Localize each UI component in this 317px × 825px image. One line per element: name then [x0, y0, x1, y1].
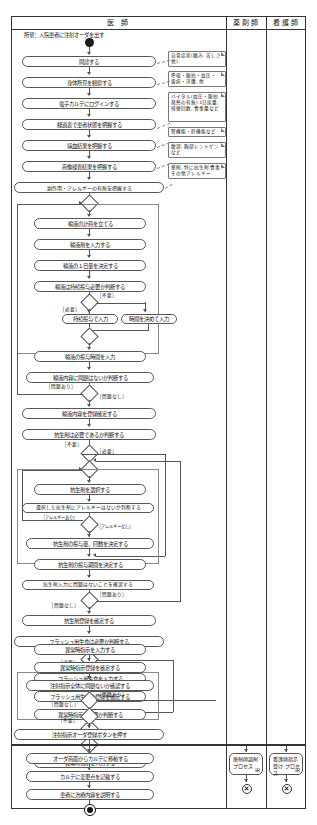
arrow: [87, 367, 91, 370]
activity-a14[interactable]: 輸液の投与時間を入力: [34, 351, 146, 362]
guard-g16: ［問題なし］: [49, 701, 79, 707]
arrow: [87, 554, 91, 557]
guard-g4: ［問題なし］: [97, 393, 127, 399]
guard-g2: ［必要］: [60, 306, 80, 312]
initial-node: [85, 38, 94, 47]
activity-a10[interactable]: 輸液の１日量を決定する: [34, 260, 146, 271]
activity-a23[interactable]: 抗生剤登録を確定する: [22, 615, 156, 626]
activity-a32[interactable]: オーダ画面からカルテに移動する: [26, 753, 154, 764]
guard-g9: ［問題あり］: [97, 591, 127, 597]
arrow: [244, 749, 248, 752]
arrow: [87, 480, 91, 483]
activity-a22[interactable]: 抗生剤入力に問題はないことを確認する: [22, 580, 154, 590]
flow: [17, 204, 82, 205]
flow: [22, 470, 23, 520]
flow: [180, 461, 181, 601]
activity-a03[interactable]: 電子カルテにログインする: [22, 98, 156, 109]
arrow: [87, 156, 91, 159]
activity-a05[interactable]: 採血結果を把握する: [22, 140, 156, 151]
activity-a15[interactable]: 輸液内容に問題はないか判断する: [26, 372, 154, 383]
activity-a29[interactable]: 異常時指示登録を確定する: [34, 662, 146, 673]
flow: [165, 454, 166, 556]
arrow: [87, 135, 91, 138]
note-n6: 薬剤, 特に抗生剤 食事, その他アレルギー: [168, 163, 226, 179]
activity-a34[interactable]: 患者に治療内容を説明する: [26, 789, 154, 800]
lane-header-pharmacist: 薬剤師: [226, 16, 266, 30]
guard-g8: ［アレルギーなし］: [97, 523, 133, 529]
arrow: [87, 658, 91, 661]
arrow: [87, 424, 91, 427]
subprocess-icon: ⊞: [295, 767, 300, 773]
guard-g5: ［不要］: [62, 441, 82, 447]
activity-a28-dup[interactable]: 異常時指示を入力する: [34, 644, 146, 655]
activity-a06[interactable]: 画像検査結果を把握する: [22, 161, 156, 172]
activity-a02[interactable]: 身体所見を観察する: [22, 77, 156, 88]
note-n3: バイタル(血圧・脈拍 発熱の有無) 1日尿量, 排便回数, 食事量など: [168, 92, 226, 122]
flow: [22, 470, 82, 471]
arrow: [87, 72, 91, 75]
flow: [22, 520, 83, 521]
arrow: [284, 749, 288, 752]
activity-a12[interactable]: 持続投与で入力: [62, 314, 118, 324]
note-n2: 呼吸・脈拍・血圧・ 黄疸・浮腫, 他: [168, 71, 226, 87]
flow: [17, 204, 18, 394]
arrow: [87, 534, 91, 537]
flow: [17, 394, 83, 395]
arrow: [87, 255, 91, 258]
activity-a17[interactable]: 抗生剤は必要であるか判断する: [22, 429, 156, 440]
activity-a09[interactable]: 輸液剤を入力する: [34, 239, 146, 250]
activity-a07[interactable]: 副作用・アレルギーの有無を把握する: [14, 182, 164, 193]
activity-a04[interactable]: 経過表で患者状態を把握する: [22, 119, 156, 130]
arrow: [87, 347, 91, 350]
swimlane-header-row: 医 師 薬剤師 看護師: [11, 16, 306, 30]
arrow: [87, 310, 91, 313]
arrow: [87, 177, 91, 180]
note-n1: 自覚症状(痛み, 苦しさ 他): [168, 51, 226, 67]
activity-a21[interactable]: 抗生剤の投与期間を決定する: [34, 559, 146, 570]
arrow: [87, 234, 91, 237]
arrow: [87, 114, 91, 117]
arrow: [87, 611, 91, 614]
lane-header-nurse: 看護師: [266, 16, 306, 30]
arrow: [79, 467, 82, 471]
flow: [82, 454, 166, 455]
note-n4: 腎機能・肝機能など: [168, 127, 226, 137]
guard-g15: ［問題あり］: [97, 691, 127, 697]
arrow: [87, 749, 91, 752]
arrow: [87, 725, 91, 728]
activity-a01[interactable]: 問診する: [22, 56, 156, 67]
arrow: [87, 52, 91, 55]
activity-a30[interactable]: 注射指示全体に問題ないか確認する: [26, 680, 154, 691]
activity-a11[interactable]: 輸液は持続投与必要か判断する: [34, 281, 146, 292]
subprocess-pharmacist[interactable]: 薬剤師調剤 プロセス ⊞: [229, 753, 263, 775]
arrow: [143, 309, 147, 312]
arrow: [87, 93, 91, 96]
tail-section: 異常時指示を入力する 異常時指示登録を確定する 注射指示全体に問題ないか確認する…: [0, 640, 317, 825]
arrow: [79, 201, 82, 205]
activity-a16[interactable]: 輸液内容を登録確定する: [22, 408, 156, 419]
lane-header-doctor: 医 師: [11, 16, 226, 30]
arrow: [93, 458, 96, 462]
activity-a31[interactable]: 注射指示オーダ登録ボタンを押す: [14, 729, 164, 740]
flow: [96, 461, 180, 462]
final-node: [84, 804, 96, 816]
fork-bar: [12, 744, 305, 746]
guard-g10: ［問題なし］: [49, 602, 79, 608]
arrow: [87, 631, 91, 634]
activity-a19[interactable]: 選択した抗生剤にアレルギーはないか判断する: [22, 503, 154, 513]
flow-final-node-pharmacist: [242, 784, 252, 794]
flow: [96, 601, 181, 602]
subprocess-nurse[interactable]: 看護師指示受け プロセス ⊞: [269, 753, 303, 775]
arrow: [87, 575, 91, 578]
guard-g3: ［問題あり］: [46, 383, 76, 389]
activity-a08[interactable]: 輸液の計画を立てる: [34, 218, 146, 229]
subprocess-icon: ⊞: [255, 767, 260, 773]
note-n5: 腹部, 胸部レントゲン など: [168, 142, 226, 158]
arrow: [87, 676, 91, 679]
activity-diagram-page: 医 師 薬剤師 看護師 所望：入院患者に注射オーダを出す 問診する 身体所見を観…: [0, 0, 317, 825]
activity-a13[interactable]: 時間を決めて入力: [121, 314, 177, 324]
activity-a20[interactable]: 抗生剤の投与量、回数を決定する: [26, 538, 154, 549]
activity-a33[interactable]: カルテに変更点を記載する: [26, 771, 154, 782]
activity-a18[interactable]: 抗生剤を選択する: [34, 484, 146, 495]
guard-g1: ［不要］: [97, 292, 117, 298]
